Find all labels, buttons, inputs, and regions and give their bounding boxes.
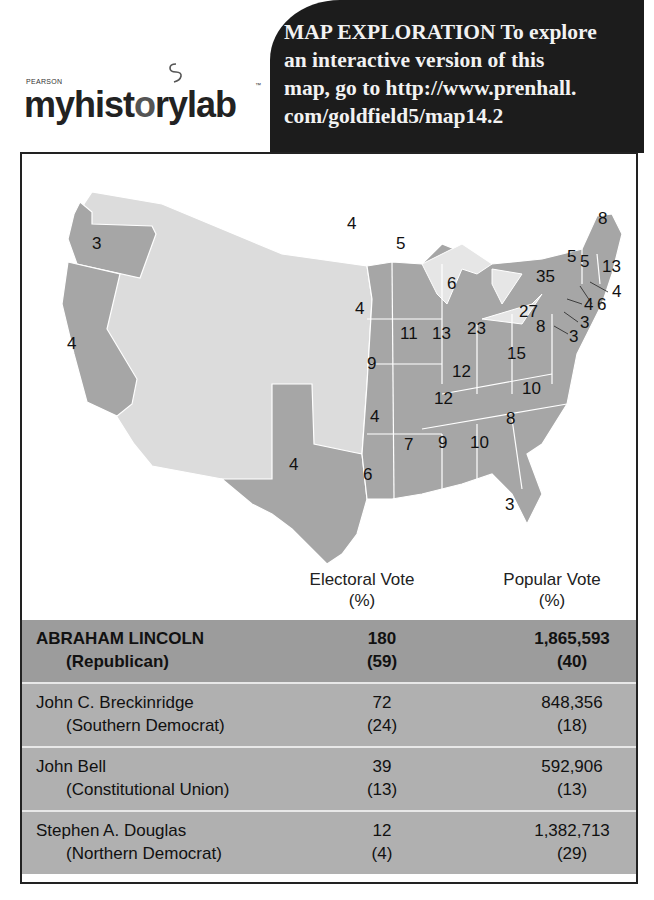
popular-percent: (40)	[512, 650, 632, 674]
map-exploration-callout: MAP EXPLORATION To explore an interactiv…	[270, 0, 644, 153]
brand-wordmark: myhistorylab	[24, 84, 236, 126]
callout-line-4[interactable]: com/goldfield5/map14.2	[284, 102, 644, 130]
popular-vote-header: Popular Vote (%)	[472, 569, 632, 611]
label-michigan: 6	[447, 274, 456, 293]
label-florida: 3	[505, 495, 514, 514]
popular-votes: 1,865,593	[512, 627, 632, 651]
popular-percent: (18)	[512, 714, 632, 738]
label-wisconsin: 5	[396, 234, 405, 253]
candidate-name: John C. Breckinridge	[36, 691, 194, 715]
electoral-header-unit: (%)	[292, 590, 432, 611]
label-louisiana: 6	[363, 465, 372, 484]
label-delaware-lower: 3	[569, 327, 578, 346]
brand-part-2: rylab	[155, 84, 236, 125]
label-ohio: 23	[467, 319, 486, 338]
popular-percent: (13)	[512, 778, 632, 802]
label-maryland: 8	[536, 317, 545, 336]
label-rhode-island: 4	[612, 282, 621, 301]
label-georgia: 10	[470, 433, 489, 452]
myhistorylab-logo: PEARSON myhistorylab ™	[20, 78, 265, 128]
electoral-percent: (59)	[352, 650, 412, 674]
label-arkansas: 4	[370, 407, 379, 426]
callout-line-3[interactable]: map, go to http://www.prenhall.	[284, 74, 644, 102]
electoral-percent: (13)	[352, 778, 412, 802]
popular-header-unit: (%)	[472, 590, 632, 611]
label-delaware: 3	[580, 313, 589, 332]
electoral-votes: 12	[352, 819, 412, 843]
popular-votes: 592,906	[512, 755, 632, 779]
callout-line-2: an interactive version of this	[284, 46, 644, 74]
label-illinois: 11	[400, 324, 418, 343]
popular-header-label: Popular Vote	[472, 569, 632, 590]
candidate-party: (Northern Democrat)	[66, 842, 222, 866]
table-header: Electoral Vote (%) Popular Vote (%)	[22, 569, 636, 619]
candidate-party: (Southern Democrat)	[66, 714, 225, 738]
label-new-jersey: 4	[584, 295, 593, 314]
brand-globe-o: o	[134, 84, 155, 125]
callout-text: MAP EXPLORATION To explore an interactiv…	[284, 18, 644, 130]
election-map: 3 4 4 5 6 4 11 13 23 9 12 15 12 10 4 8 7…	[22, 154, 636, 574]
electoral-votes: 180	[352, 627, 412, 651]
label-mississippi: 7	[404, 435, 413, 454]
label-connecticut: 6	[597, 295, 606, 314]
electoral-vote-header: Electoral Vote (%)	[292, 569, 432, 611]
label-virginia: 15	[507, 344, 526, 363]
candidate-party: (Constitutional Union)	[66, 778, 229, 802]
callout-line-1: MAP EXPLORATION To explore	[284, 18, 644, 46]
candidate-name: Stephen A. Douglas	[36, 819, 186, 843]
candidate-name: John Bell	[36, 755, 106, 779]
electoral-header-label: Electoral Vote	[292, 569, 432, 590]
label-tennessee: 12	[434, 389, 453, 408]
us-map-svg: 3 4 4 5 6 4 11 13 23 9 12 15 12 10 4 8 7…	[22, 154, 636, 574]
table-row: John C. Breckinridge (Southern Democrat)…	[22, 682, 636, 746]
trademark-symbol: ™	[255, 82, 261, 88]
label-california: 4	[67, 334, 76, 353]
table-row: ABRAHAM LINCOLN (Republican) 180 (59) 1,…	[22, 620, 636, 682]
label-kentucky: 12	[452, 362, 471, 381]
table-row: John Bell (Constitutional Union) 39 (13)…	[22, 746, 636, 810]
brand-part-1: myhist	[24, 84, 134, 125]
label-new-york: 35	[536, 267, 555, 286]
label-minnesota: 4	[347, 214, 356, 233]
electoral-votes: 72	[352, 691, 412, 715]
label-texas: 4	[289, 455, 298, 474]
electoral-votes: 39	[352, 755, 412, 779]
results-table: ABRAHAM LINCOLN (Republican) 180 (59) 1,…	[22, 620, 636, 874]
candidate-party: (Republican)	[66, 650, 169, 674]
candidate-name: ABRAHAM LINCOLN	[36, 627, 204, 651]
label-missouri: 9	[367, 354, 376, 373]
label-new-hampshire: 5	[580, 252, 589, 271]
label-oregon: 3	[92, 234, 101, 253]
popular-votes: 848,356	[512, 691, 632, 715]
map-frame: 3 4 4 5 6 4 11 13 23 9 12 15 12 10 4 8 7…	[20, 152, 638, 884]
label-vermont: 5	[567, 247, 576, 266]
electoral-percent: (24)	[352, 714, 412, 738]
label-alabama: 9	[438, 433, 447, 452]
label-iowa: 4	[355, 299, 364, 318]
popular-votes: 1,382,713	[512, 819, 632, 843]
label-south-carolina: 8	[506, 409, 515, 428]
table-row: Stephen A. Douglas (Northern Democrat) 1…	[22, 810, 636, 874]
label-north-carolina: 10	[522, 379, 541, 398]
electoral-percent: (4)	[352, 842, 412, 866]
popular-percent: (29)	[512, 842, 632, 866]
label-massachusetts: 13	[602, 257, 621, 276]
label-maine: 8	[598, 209, 607, 228]
label-indiana: 13	[432, 324, 451, 343]
